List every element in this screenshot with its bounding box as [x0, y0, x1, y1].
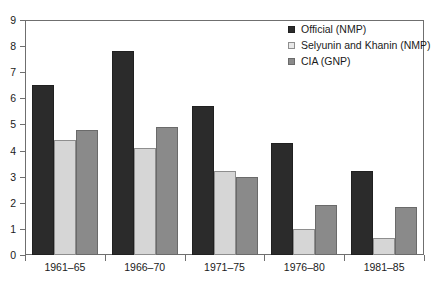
legend-label: Selyunin and Khanin (NMP): [301, 40, 431, 51]
x-axis-tick-label: 1981–85: [364, 262, 405, 273]
x-axis-tick-mark: [105, 255, 106, 261]
x-axis-tick-mark: [185, 255, 186, 261]
legend-item: CIA (GNP): [288, 54, 420, 68]
legend: Official (NMP)Selyunin and Khanin (NMP)C…: [288, 22, 420, 70]
x-axis-tick-mark: [264, 255, 265, 261]
x-axis-tick-mark: [25, 255, 26, 261]
legend-item: Selyunin and Khanin (NMP): [288, 38, 420, 52]
x-axis-tick-label: 1966–70: [124, 262, 165, 273]
legend-label: CIA (GNP): [301, 56, 351, 67]
x-axis-tick-label: 1971–75: [204, 262, 245, 273]
legend-swatch-icon: [288, 58, 295, 65]
x-axis-tick-label: 1961–65: [44, 262, 85, 273]
legend-label: Official (NMP): [301, 24, 366, 35]
legend-swatch-icon: [288, 42, 295, 49]
x-axis-tick-mark: [344, 255, 345, 261]
legend-item: Official (NMP): [288, 22, 420, 36]
legend-swatch-icon: [288, 26, 295, 33]
x-axis-tick-label: 1976–80: [284, 262, 325, 273]
bar-chart: 0123456789 1961–651966–701971–751976–801…: [0, 0, 437, 285]
x-axis-tick-mark: [424, 255, 425, 261]
